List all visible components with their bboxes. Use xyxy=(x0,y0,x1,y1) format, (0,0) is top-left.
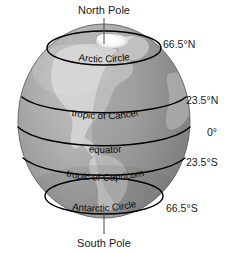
latitude-label-66-5-s: 66.5°S xyxy=(166,202,198,214)
latitude-label-0: 0° xyxy=(207,126,217,138)
north-pole-label: North Pole xyxy=(78,4,130,16)
latitude-label-23-5-s: 23.5°S xyxy=(186,156,218,168)
globe-diagram: Arctic Circle tropic of Cancer equator t… xyxy=(0,0,238,254)
south-pole-label: South Pole xyxy=(77,237,131,249)
label-equator: equator xyxy=(89,143,123,155)
latitude-label-23-5-n: 23.5°N xyxy=(186,94,218,106)
latitude-label-66-5-n: 66.5°N xyxy=(163,38,195,50)
polar-ice-cap-highlight xyxy=(97,34,115,42)
